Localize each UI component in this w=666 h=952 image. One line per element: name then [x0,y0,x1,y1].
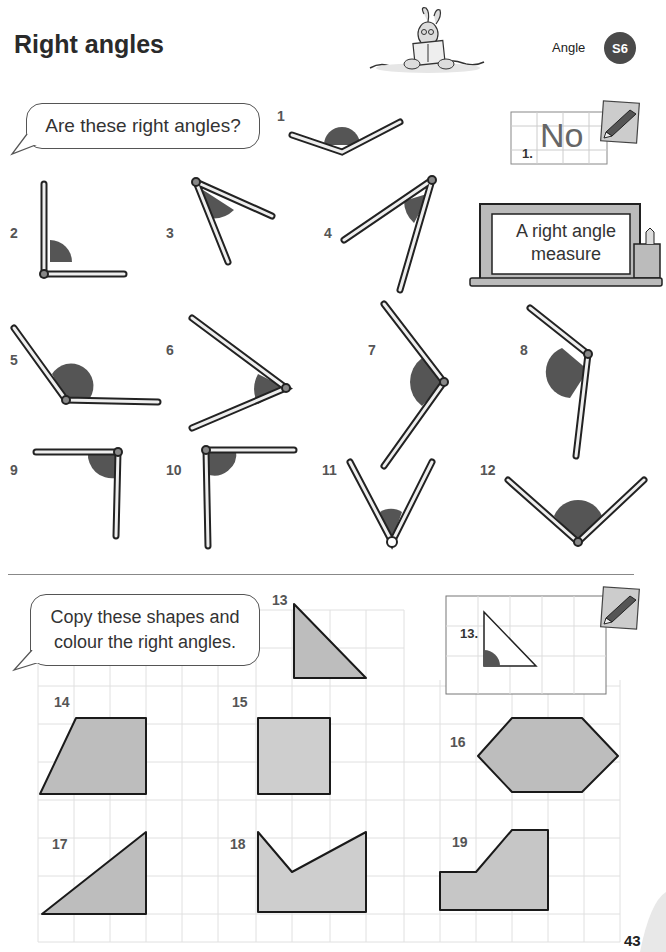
shape-number-15: 15 [232,694,248,710]
shape-number-16: 16 [450,734,466,750]
shape-number-19: 19 [452,834,468,850]
shape-number-14: 14 [54,694,70,710]
shape-number-13: 13 [272,592,288,608]
example-shape-label: 13. [460,626,478,641]
book-angles-layer [0,0,666,580]
shape-18 [258,832,366,912]
page-number: 43 [624,932,641,949]
shape-number-17: 17 [52,836,68,852]
speech-bubble-instruction: Copy these shapes and colour the right a… [30,594,260,666]
pencil-note-icon [601,587,640,629]
speech-bubble-tail-2 [12,650,42,672]
shape-number-18: 18 [230,836,246,852]
shape-15 [258,718,330,794]
shape-16 [478,718,618,792]
shape-14 [40,718,146,794]
section-divider [8,574,634,575]
